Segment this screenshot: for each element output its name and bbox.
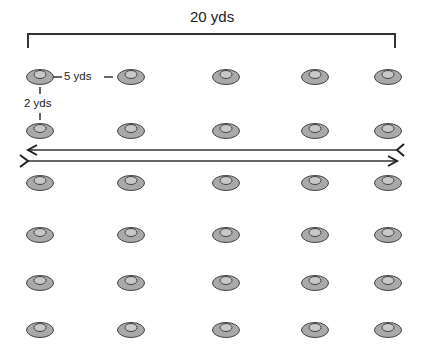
cone-icon [118,228,145,243]
cone-icon [302,176,329,191]
cone-icon [213,124,240,139]
cone-icon [27,228,54,243]
width-label: 20 yds [190,8,234,25]
cone-icon [302,228,329,243]
cone-icon [118,276,145,291]
cone-icon [213,70,240,85]
cone-icon [118,323,145,338]
row-spacing-label: 2 yds [24,97,52,109]
cone-icon [302,70,329,85]
column-spacing-label: 5 yds [62,70,94,82]
cone-icon [213,176,240,191]
cone-icon [27,124,54,139]
width-bracket [28,34,395,48]
cone-icon [302,124,329,139]
cone-icon [27,176,54,191]
cone-icon [27,276,54,291]
cone-icon [213,323,240,338]
cone-icon [213,276,240,291]
cone-icon [302,276,329,291]
cone-icon [375,323,402,338]
cone-icon [302,323,329,338]
cone-icon [375,228,402,243]
cone-icon [118,176,145,191]
cone-drill-diagram [0,0,426,359]
cone-icon [375,70,402,85]
cone-icon [375,176,402,191]
cone-icon [27,323,54,338]
cone-icon [213,228,240,243]
cone-grid [27,70,402,338]
cone-icon [118,70,145,85]
left-arrow [28,144,404,156]
cone-icon [375,124,402,139]
cone-icon [27,70,54,85]
right-arrow [20,155,397,167]
cone-icon [375,276,402,291]
cone-icon [118,124,145,139]
